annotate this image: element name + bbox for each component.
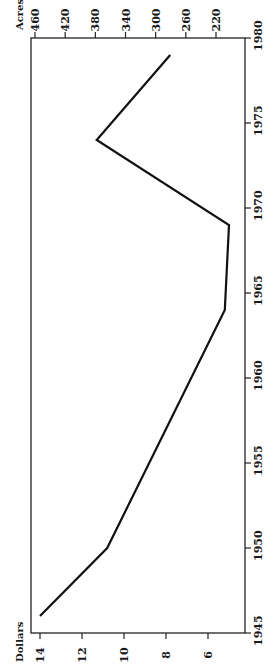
year-axis: 19451950195519601965197019751980 bbox=[245, 20, 265, 646]
dollars-axis: 14121086 bbox=[34, 633, 215, 663]
year-tick-label: 1950 bbox=[252, 530, 265, 561]
dollars-tick-label: 14 bbox=[34, 647, 47, 663]
acres-tick-label: 420 bbox=[59, 8, 72, 31]
acres-axis: 460420380340300260220 bbox=[29, 8, 223, 38]
year-tick-label: 1975 bbox=[252, 105, 265, 136]
acres-tick-label: 380 bbox=[89, 8, 102, 31]
dollars-axis-title: Dollars bbox=[14, 621, 25, 662]
year-tick-label: 1955 bbox=[252, 445, 265, 476]
line-chart: 19451950195519601965197019751980 1412108… bbox=[0, 0, 278, 667]
dollars-tick-label: 8 bbox=[160, 651, 173, 659]
acres-tick-label: 340 bbox=[120, 8, 133, 31]
acres-tick-label: 260 bbox=[180, 8, 193, 31]
dollars-tick-label: 12 bbox=[76, 647, 89, 662]
acres-axis-title: Acres bbox=[14, 0, 25, 31]
dollars-tick-label: 10 bbox=[118, 647, 131, 663]
dollars-line bbox=[40, 55, 229, 616]
year-tick-label: 1945 bbox=[252, 615, 265, 646]
year-tick-label: 1970 bbox=[252, 190, 265, 221]
year-tick-label: 1965 bbox=[252, 275, 265, 306]
year-tick-label: 1980 bbox=[252, 20, 265, 51]
dollars-tick-label: 6 bbox=[202, 651, 215, 659]
acres-tick-label: 220 bbox=[210, 8, 223, 31]
acres-tick-label: 300 bbox=[150, 8, 163, 31]
year-tick-label: 1960 bbox=[252, 360, 265, 391]
acres-tick-label: 460 bbox=[29, 8, 42, 31]
data-series bbox=[40, 55, 229, 616]
